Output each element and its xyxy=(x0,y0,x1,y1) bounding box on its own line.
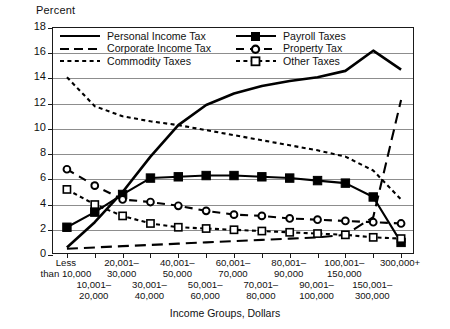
legend-label: Corporate Income Tax xyxy=(107,42,211,54)
data-point-marker xyxy=(258,213,265,220)
data-point-marker xyxy=(398,220,405,227)
y-tick-label: 6 xyxy=(16,171,46,183)
data-point-marker xyxy=(91,182,98,189)
data-point-marker xyxy=(314,216,321,223)
data-point-marker xyxy=(146,174,154,182)
legend-item-personal-income-tax: Personal Income Tax xyxy=(58,30,234,42)
y-tick-label: 16 xyxy=(16,45,46,57)
solid-line-icon xyxy=(58,30,102,42)
x-category-label: 100,001–150,000 xyxy=(314,258,374,279)
data-point-marker xyxy=(230,171,238,179)
legend-item-corporate-income-tax: Corporate Income Tax xyxy=(58,42,234,54)
legend-row-2: Corporate Income Tax Property Tax xyxy=(58,42,358,54)
y-tick-label: 4 xyxy=(16,197,46,209)
data-point-marker xyxy=(91,201,98,208)
data-point-marker xyxy=(119,212,126,219)
x-category-label: 10,001–20,000 xyxy=(64,280,124,301)
data-point-marker xyxy=(286,215,293,222)
legend-item-other-taxes: Other Taxes xyxy=(234,55,340,67)
y-tick-label: 18 xyxy=(16,20,46,32)
data-point-marker xyxy=(258,227,265,234)
data-point-marker xyxy=(63,223,71,231)
data-point-marker xyxy=(369,193,377,201)
data-point-marker xyxy=(370,219,377,226)
data-point-marker xyxy=(286,229,293,236)
chart-legend: Personal Income Tax Payroll Taxes Corpor… xyxy=(58,30,358,67)
data-point-marker xyxy=(63,186,70,193)
legend-item-payroll-taxes: Payroll Taxes xyxy=(234,30,346,42)
y-tick-mark xyxy=(48,255,53,256)
data-point-marker xyxy=(231,211,238,218)
y-tick-label: 8 xyxy=(16,146,46,158)
data-point-marker xyxy=(175,202,182,209)
data-point-marker xyxy=(397,235,404,242)
series-line-2 xyxy=(67,77,401,199)
data-point-marker xyxy=(147,220,154,227)
solid-square-line-icon xyxy=(234,30,278,42)
data-point-marker xyxy=(285,174,293,182)
x-category-label: 60,001–70,000 xyxy=(203,258,263,279)
dashed-line-icon xyxy=(58,43,102,55)
dotted-square-line-icon xyxy=(234,55,278,67)
legend-label: Other Taxes xyxy=(283,55,340,67)
data-point-marker xyxy=(119,196,126,203)
data-point-marker xyxy=(174,173,182,181)
tax-incidence-line-chart: Percent 024681012141618 Lessthan 10,0001… xyxy=(0,0,450,329)
y-tick-label: 2 xyxy=(16,222,46,234)
legend-label: Payroll Taxes xyxy=(283,30,346,42)
x-category-label: Lessthan 10,000 xyxy=(36,258,96,279)
data-point-marker xyxy=(342,218,349,225)
x-category-label: 20,001–30,000 xyxy=(92,258,152,279)
data-point-marker xyxy=(147,199,154,206)
legend-label: Property Tax xyxy=(283,42,342,54)
x-category-label: 50,001–60,000 xyxy=(175,280,235,301)
data-point-marker xyxy=(314,230,321,237)
y-tick-label: 14 xyxy=(16,70,46,82)
data-point-marker xyxy=(313,176,321,184)
legend-label: Personal Income Tax xyxy=(107,30,206,42)
data-point-marker xyxy=(202,171,210,179)
legend-row-3: Commodity Taxes Other Taxes xyxy=(58,55,358,67)
x-category-label: 30,001–40,000 xyxy=(119,280,179,301)
legend-label: Commodity Taxes xyxy=(107,55,191,67)
y-axis-title: Percent xyxy=(36,4,75,16)
x-category-label: 70,001–80,000 xyxy=(231,280,291,301)
dotted-line-icon xyxy=(58,55,102,67)
y-tick-label: 10 xyxy=(16,121,46,133)
x-category-label: 80,001–90,000 xyxy=(259,258,319,279)
x-category-label: 150,001–300,000 xyxy=(342,280,402,301)
data-point-marker xyxy=(64,166,71,173)
data-point-marker xyxy=(342,231,349,238)
x-category-label: 90,001–100,000 xyxy=(287,280,347,301)
legend-row-1: Personal Income Tax Payroll Taxes xyxy=(58,30,358,42)
data-point-marker xyxy=(370,234,377,241)
x-axis-title: Income Groups, Dollars xyxy=(0,307,450,319)
data-point-marker xyxy=(230,226,237,233)
data-point-marker xyxy=(341,179,349,187)
data-point-marker xyxy=(203,207,210,214)
data-point-marker xyxy=(258,173,266,181)
x-category-label: 40,001–50,000 xyxy=(147,258,207,279)
data-point-marker xyxy=(91,208,99,216)
dashed-circle-line-icon xyxy=(234,43,278,55)
legend-item-property-tax: Property Tax xyxy=(234,42,342,54)
data-point-marker xyxy=(203,225,210,232)
data-point-marker xyxy=(175,224,182,231)
x-category-label: 300,000+ xyxy=(370,258,430,269)
legend-item-commodity-taxes: Commodity Taxes xyxy=(58,55,234,67)
y-tick-label: 12 xyxy=(16,96,46,108)
